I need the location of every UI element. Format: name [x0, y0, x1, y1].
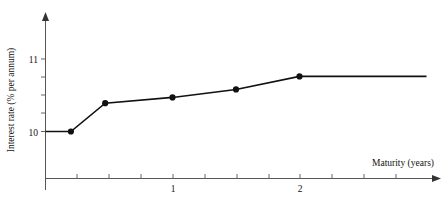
chart-canvas: 11 10 1 2 Maturity (years) Interest rate…	[0, 0, 448, 201]
x-tick-label-2: 2	[298, 184, 303, 194]
y-axis-ticks	[41, 59, 46, 132]
x-tick-label-1: 1	[171, 184, 176, 194]
data-point-marker	[233, 86, 239, 92]
y-axis-title: Interest rate (% per annum)	[6, 48, 17, 152]
y-tick-label-10: 10	[29, 128, 39, 138]
data-point-marker	[169, 94, 175, 100]
x-axis-ticks	[77, 174, 396, 179]
y-tick-label-11: 11	[29, 55, 38, 65]
x-axis-arrowhead	[432, 175, 441, 182]
yield-curve-chart: 11 10 1 2 Maturity (years) Interest rate…	[0, 0, 448, 201]
data-point-marker	[102, 100, 108, 106]
x-axis-title: Maturity (years)	[372, 158, 434, 169]
data-point-marker	[296, 73, 302, 79]
y-axis-arrowhead	[42, 12, 49, 21]
data-point-marker	[68, 128, 74, 134]
